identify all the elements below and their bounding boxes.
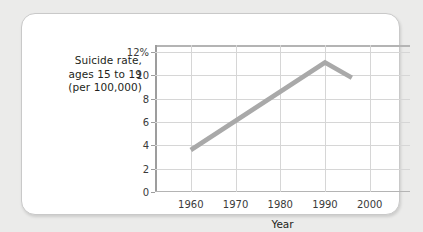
y-axis-label: Suicide rate, ages 15 to 19 (per 100,000… bbox=[34, 54, 142, 95]
screenshot-root: Suicide rate, ages 15 to 19 (per 100,000… bbox=[0, 0, 423, 232]
y-tick-label: 12% bbox=[127, 47, 149, 58]
y-axis-label-line-3: (per 100,000) bbox=[34, 81, 142, 95]
y-tick-label: 2 bbox=[143, 163, 149, 174]
y-tick-label: 0 bbox=[143, 187, 149, 198]
data-series-line bbox=[155, 45, 410, 192]
y-tick-label: 4 bbox=[143, 140, 149, 151]
x-axis-title: Year bbox=[155, 218, 410, 230]
y-tick-label: 8 bbox=[143, 93, 149, 104]
plot-area: 024681012% 19601970198019902000 Year bbox=[155, 45, 410, 192]
x-tick-label: 2000 bbox=[357, 199, 382, 210]
y-axis-label-line-2: ages 15 to 19 bbox=[34, 68, 142, 82]
x-tick-label: 1970 bbox=[223, 199, 248, 210]
x-tick-label: 1980 bbox=[268, 199, 293, 210]
y-tick-mark bbox=[151, 192, 155, 193]
y-tick-label: 10 bbox=[136, 70, 149, 81]
chart-card: Suicide rate, ages 15 to 19 (per 100,000… bbox=[21, 13, 400, 215]
y-tick-label: 6 bbox=[143, 117, 149, 128]
x-tick-label: 1960 bbox=[178, 199, 203, 210]
x-tick-label: 1990 bbox=[312, 199, 337, 210]
